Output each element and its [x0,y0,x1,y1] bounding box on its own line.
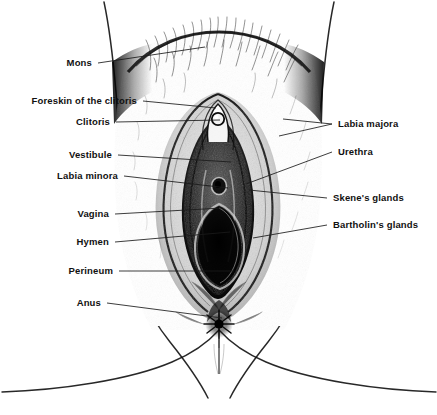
label-hymen[interactable]: Hymen [77,237,109,247]
label-vestibule[interactable]: Vestibule [69,150,112,160]
label-labia-majora[interactable]: Labia majora [338,119,398,129]
label-mons[interactable]: Mons [67,58,92,68]
vulvar-anatomy-illustration [0,0,437,415]
label-foreskin-of-clitoris[interactable]: Foreskin of the clitoris [32,96,137,106]
label-urethra[interactable]: Urethra [338,147,373,157]
label-labia-minora[interactable]: Labia minora [57,171,118,181]
label-bartholins-glands[interactable]: Bartholin's glands [333,220,418,230]
label-skenes-glands[interactable]: Skene's glands [333,193,404,203]
glans-clitoris [212,113,224,125]
label-perineum[interactable]: Perineum [69,266,114,276]
anatomy-diagram-page: Mons Foreskin of the clitoris Clitoris V… [0,0,437,415]
label-vagina[interactable]: Vagina [77,209,109,219]
label-clitoris[interactable]: Clitoris [76,117,110,127]
label-anus[interactable]: Anus [77,298,101,308]
